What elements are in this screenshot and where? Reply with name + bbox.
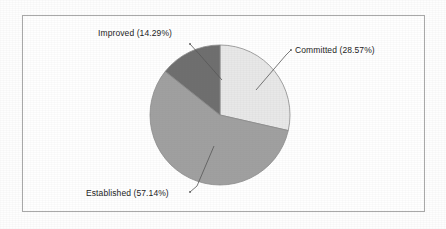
figure-root: Improved (14.29%) Committed (28.57%) Est… <box>0 0 446 229</box>
pie-label-established: Established (57.14%) <box>86 188 169 198</box>
pie-label-committed: Committed (28.57%) <box>295 45 375 55</box>
pie-label-improved: Improved (14.29%) <box>98 28 172 38</box>
